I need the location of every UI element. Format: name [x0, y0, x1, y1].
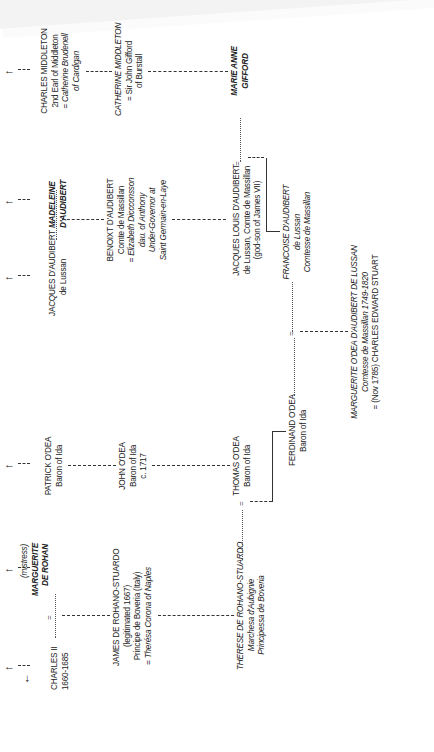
arrow-stub [18, 463, 30, 464]
person-benoixt-daudibert: BENOIXT D'AUDIBERT Comte de Massillan = … [106, 174, 169, 266]
person-charles-middleton: CHARLES MIDDLETON 2nd Earl of Middleton … [40, 26, 82, 116]
descent-line [266, 158, 267, 232]
marriage-line [294, 338, 295, 396]
descent-line [62, 219, 104, 220]
person-thomas-odea: THOMAS O'DEA Baron of Ida [232, 436, 253, 496]
descent-line [266, 231, 280, 232]
ancestry-arrow-icon: ← [4, 271, 15, 282]
person-ferdinand-odea: FERDINAND O'DEA Baron of Ida [288, 396, 309, 466]
descent-line [148, 71, 228, 72]
person-john-odea: JOHN O'DEA Baron of Ida c. 1717 [118, 436, 150, 496]
person-francoise-daudibert: FRANCOISE D'AUDIBERT de Lussan Comtesse … [282, 182, 314, 282]
descent-line [300, 331, 348, 332]
person-patrick-odea: PATRICK O'DEA Baron of Ida [44, 436, 65, 496]
descent-line [86, 71, 112, 72]
arrow-stub [18, 69, 30, 70]
marriage-symbol: = [46, 615, 54, 620]
person-marguerite-odea-daudibert: MARGUERITE O'DEA D'AUDIBERT DE LUSSAN Co… [350, 242, 382, 422]
arrow-stub [18, 567, 30, 568]
family-tree-diagram: ← CHARLES II 1660-1685 = (mistress) MARG… [0, 0, 434, 752]
arrow-stub [18, 665, 30, 666]
ancestry-arrow-icon: ← [4, 65, 15, 76]
person-jacques-louis-daudibert: JACQUES LOUIS D'AUDIBERT de Lussan, Comt… [232, 162, 264, 278]
descent-line [248, 157, 264, 158]
descent-line [68, 465, 116, 466]
marriage-line [292, 282, 293, 332]
marriage-symbol: = [288, 331, 296, 336]
marriage-symbol: = [234, 161, 242, 166]
person-jacques-daudibert: JACQUES D'AUDIBERT de Lussan [48, 238, 69, 316]
descent-line [172, 219, 226, 220]
descent-line [62, 615, 110, 616]
person-therese-de-rohano-stuardo: THERESE DE ROHANO-STUARDO Marchesa d'Aub… [236, 560, 268, 670]
person-catherine-middleton: CATHERINE MIDDLETON = Sir John Gifford o… [114, 26, 146, 116]
descent-line [152, 465, 230, 466]
marriage-line [242, 510, 243, 560]
person-marie-anne-gifford: MARIE ANNE GIFFORD [230, 36, 251, 106]
descent-line [272, 432, 273, 502]
arrow-stub [18, 199, 30, 200]
ancestry-arrow-icon: ← [4, 563, 15, 574]
arrow-stub [18, 275, 30, 276]
ancestry-arrow-icon: ← [20, 673, 31, 684]
descent-line [158, 615, 234, 616]
marriage-line [55, 594, 56, 638]
marriage-symbol: = [238, 501, 246, 506]
ancestry-arrow-icon: ← [4, 459, 15, 470]
person-charles-ii: CHARLES II 1660-1685 [50, 638, 71, 690]
ancestry-arrow-icon: ← [4, 195, 15, 206]
marriage-line [240, 118, 241, 162]
person-james-de-rohano-stuardo: JAMES DE ROHANO-STUARDO (legitimated 166… [112, 566, 154, 666]
person-madeleine-daudibert: MADELEINE D'AUDIBERT [48, 186, 69, 228]
descent-line [250, 501, 272, 502]
ancestry-arrow-icon: ← [4, 661, 15, 672]
person-marguerite-de-rohan: (mistress) MARGUERITE DE ROHAN [20, 544, 52, 596]
descent-line [272, 431, 286, 432]
